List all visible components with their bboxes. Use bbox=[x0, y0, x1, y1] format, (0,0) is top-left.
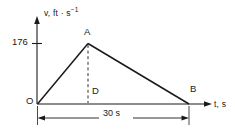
segment-AB bbox=[88, 44, 189, 105]
velocity-time-diagram: v, ft · s−1 176 t, s O A D B 30 s bbox=[0, 0, 235, 130]
y-tick-label-176: 176 bbox=[12, 37, 28, 47]
y-axis-title-text: v, ft · s bbox=[44, 8, 71, 18]
y-axis bbox=[34, 16, 40, 104]
point-label-end: B bbox=[190, 84, 196, 94]
point-label-peak: A bbox=[84, 27, 90, 37]
segment-OA bbox=[38, 44, 89, 105]
dimension-label-30s: 30 s bbox=[103, 109, 120, 118]
y-axis-title-exponent: −1 bbox=[71, 6, 79, 13]
y-axis-title: v, ft · s−1 bbox=[44, 7, 78, 17]
x-axis-title: t, s bbox=[214, 100, 226, 109]
point-label-origin: O bbox=[26, 96, 33, 106]
point-label-foot: D bbox=[92, 86, 99, 96]
